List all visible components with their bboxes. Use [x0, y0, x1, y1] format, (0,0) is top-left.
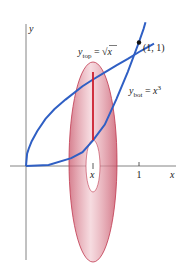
tick-one-label: 1 — [137, 169, 142, 180]
bottom-curve-label: ybot = x3 — [128, 84, 162, 99]
y-axis-label: y — [28, 23, 34, 34]
tick-x-label: x — [89, 169, 95, 180]
intersection-label: (1, 1) — [143, 42, 165, 54]
washer-diagram: y x x 1 (1, 1) ytop = √x ybot = x3 — [0, 0, 184, 271]
x-axis-label: x — [169, 169, 175, 180]
top-curve-label: ytop = √x — [77, 46, 113, 60]
intersection-dot — [137, 40, 141, 44]
